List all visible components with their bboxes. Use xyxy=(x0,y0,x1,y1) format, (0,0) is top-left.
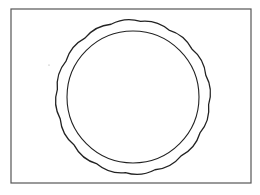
speck-dot xyxy=(48,64,49,65)
frame-border xyxy=(11,9,251,183)
inner-circle xyxy=(67,31,199,163)
drawing-canvas xyxy=(0,0,260,195)
scalloped-circle xyxy=(56,20,211,175)
